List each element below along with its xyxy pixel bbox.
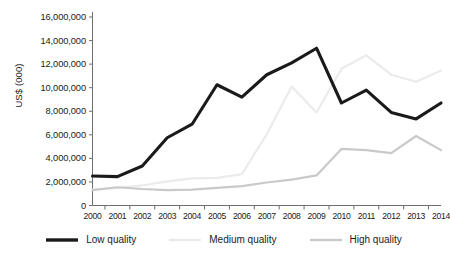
y-tick-label: 4,000,000 — [46, 153, 86, 163]
x-tick-label: 2010 — [332, 211, 350, 221]
legend-item-medium-quality[interactable]: Medium quality — [168, 234, 276, 245]
legend-swatch-low-quality — [45, 235, 79, 245]
x-tick-label: 2003 — [158, 211, 176, 221]
legend-item-high-quality[interactable]: High quality — [309, 234, 402, 245]
x-tick-label: 2001 — [108, 211, 126, 221]
y-axis-tick-labels: 02,000,0004,000,0006,000,0008,000,00010,… — [0, 0, 86, 262]
y-tick-label: 6,000,000 — [46, 130, 86, 140]
y-tick-label: 16,000,000 — [40, 12, 86, 22]
y-tick-label: 14,000,000 — [40, 36, 86, 46]
x-tick-label: 2014 — [432, 211, 450, 221]
x-tick-label: 2005 — [208, 211, 226, 221]
y-tick-label: 2,000,000 — [46, 177, 86, 187]
x-tick-label: 2013 — [407, 211, 425, 221]
legend-item-low-quality[interactable]: Low quality — [45, 234, 136, 245]
legend-label-medium-quality: Medium quality — [209, 234, 276, 245]
x-tick-label: 2007 — [258, 211, 276, 221]
x-tick-label: 2011 — [358, 211, 375, 221]
chart-legend: Low quality Medium quality High quality — [0, 234, 447, 245]
x-tick-label: 2006 — [233, 211, 251, 221]
y-tick-label: 0 — [81, 201, 86, 211]
legend-label-high-quality: High quality — [350, 234, 402, 245]
x-tick-label: 2009 — [308, 211, 326, 221]
y-tick-label: 12,000,000 — [40, 59, 86, 69]
x-tick-label: 2000 — [84, 211, 102, 221]
x-tick-label: 2012 — [382, 211, 400, 221]
y-tick-label: 10,000,000 — [40, 83, 86, 93]
legend-label-low-quality: Low quality — [86, 234, 136, 245]
y-tick-label: 8,000,000 — [46, 106, 86, 116]
series-line-low-quality — [93, 48, 442, 176]
x-tick-label: 2002 — [133, 211, 151, 221]
x-tick-label: 2004 — [183, 211, 201, 221]
x-tick-label: 2008 — [283, 211, 301, 221]
legend-swatch-medium-quality — [168, 235, 202, 245]
legend-swatch-high-quality — [309, 235, 343, 245]
